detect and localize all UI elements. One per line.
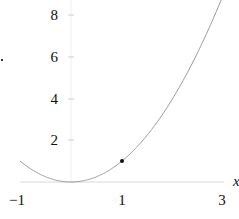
x-tick-label: −1 [9,192,25,208]
y-tick-label: 8 [51,7,59,23]
x-tick-label: 3 [218,192,226,208]
stray-mark [1,59,3,61]
x-axis-label: x [232,173,239,189]
x-tick-label: 1 [118,192,126,208]
y-tick-label: 6 [51,49,59,65]
y-tick-label: 4 [51,91,59,107]
data-point [120,159,124,163]
y-tick-label: 2 [51,132,59,148]
chart-plot: 8 6 4 2 −1 1 3 x [0,0,239,219]
